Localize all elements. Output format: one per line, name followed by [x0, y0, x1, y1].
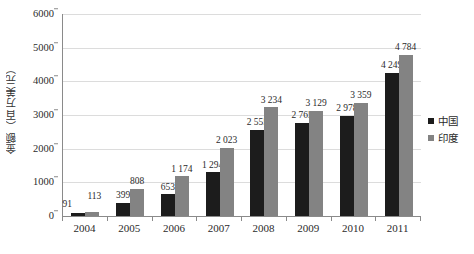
- bar-group: 2 9783 359: [332, 14, 377, 216]
- x-axis-tick-mark: [286, 216, 287, 221]
- bar-slot: 2 978: [340, 14, 354, 216]
- x-axis-ticks: [62, 216, 421, 221]
- x-axis-tick-label: 2007: [196, 222, 241, 235]
- bar-group: 399808: [108, 14, 153, 216]
- bar-value-label: 3 234: [261, 96, 282, 106]
- bar[interactable]: 2 023: [220, 148, 234, 216]
- x-axis-tick-label: 2009: [286, 222, 331, 235]
- bar[interactable]: 2 555: [250, 130, 264, 216]
- y-axis-title-text: 金额（百万美元）: [4, 62, 19, 154]
- y-axis-tick-mark: [54, 8, 58, 9]
- bar[interactable]: 3 129: [309, 111, 323, 216]
- x-axis-tick-label: 2011: [375, 222, 420, 235]
- y-axis-tick-labels: 6000500040003000200010000: [18, 14, 58, 216]
- bar[interactable]: 653: [161, 194, 175, 216]
- bar[interactable]: 399: [116, 203, 130, 216]
- bar-slot: 3 234: [264, 14, 278, 216]
- bar-value-label: 3 129: [305, 99, 326, 109]
- bar-group: 2 5553 234: [242, 14, 287, 216]
- bar[interactable]: 4 784: [399, 55, 413, 216]
- x-axis-tick-label: 2004: [62, 222, 107, 235]
- bar-slot: 91: [71, 14, 85, 216]
- y-axis-tick-mark: [54, 210, 58, 211]
- bar[interactable]: 1 294: [206, 172, 220, 216]
- bar[interactable]: 4 249: [385, 73, 399, 216]
- bar-group: 2 7653 129: [287, 14, 332, 216]
- legend-item-label: 中国: [438, 113, 458, 128]
- x-axis-tick-mark: [152, 216, 153, 221]
- bar-slot: 3 129: [309, 14, 323, 216]
- bar-value-label: 1 174: [171, 165, 192, 175]
- bar-chart: 金额（百万美元） 6000500040003000200010000 91113…: [0, 0, 474, 254]
- bar[interactable]: 1 174: [175, 176, 189, 216]
- legend-item[interactable]: 印度: [428, 129, 474, 146]
- bar-slot: 653: [161, 14, 175, 216]
- bar-slot: 4 784: [399, 14, 413, 216]
- bar-group: 91113: [63, 14, 108, 216]
- legend-item-label: 印度: [438, 130, 458, 145]
- y-axis-tick-mark: [54, 42, 58, 43]
- bar-group: 6531 174: [153, 14, 198, 216]
- bar-value-label: 653: [161, 183, 175, 193]
- y-axis-tick-label: 2000: [33, 143, 54, 154]
- bar-value-label: 2 023: [216, 136, 237, 146]
- bar-group: 1 2942 023: [197, 14, 242, 216]
- bar[interactable]: 2 765: [295, 123, 309, 216]
- y-axis-tick-mark: [54, 109, 58, 110]
- x-axis-tick-mark: [107, 216, 108, 221]
- y-axis-tick-label: 6000: [33, 9, 54, 20]
- x-axis-tick-label: 2008: [241, 222, 286, 235]
- y-axis-tick-mark: [54, 76, 58, 77]
- bar-value-label: 3 359: [350, 91, 371, 101]
- legend-color-swatch: [428, 118, 434, 124]
- x-axis-tick-mark: [241, 216, 242, 221]
- bar-slot: 1 174: [175, 14, 189, 216]
- bar-slot: 2 555: [250, 14, 264, 216]
- y-axis-tick-label: 4000: [33, 76, 54, 87]
- x-axis-tick-mark: [62, 216, 63, 221]
- bar-groups: 911133998086531 1741 2942 0232 5553 2342…: [63, 14, 421, 216]
- bar-value-label: 113: [87, 192, 101, 202]
- x-axis-tick-label: 2006: [152, 222, 197, 235]
- x-axis-tick-mark: [196, 216, 197, 221]
- y-axis-tick-label: 3000: [33, 110, 54, 121]
- bar-value-label: 399: [116, 191, 130, 201]
- bar-slot: 3 359: [354, 14, 368, 216]
- bar[interactable]: 2 978: [340, 116, 354, 216]
- y-axis-tick-mark: [54, 143, 58, 144]
- bar-group: 4 2494 784: [376, 14, 421, 216]
- bar-slot: 2 023: [220, 14, 234, 216]
- x-axis-tick-label: 2010: [331, 222, 376, 235]
- plot-area: 911133998086531 1741 2942 0232 5553 2342…: [62, 14, 421, 217]
- bar-value-label: 4 784: [395, 43, 416, 53]
- y-axis-tick-label: 0: [49, 211, 54, 222]
- bar[interactable]: 3 234: [264, 107, 278, 216]
- bar[interactable]: 3 359: [354, 103, 368, 216]
- x-axis-tick-mark: [375, 216, 376, 221]
- x-axis-tick-mark: [420, 216, 421, 221]
- bar-slot: 2 765: [295, 14, 309, 216]
- legend-item[interactable]: 中国: [428, 112, 474, 129]
- bar-value-label: 808: [130, 177, 144, 187]
- x-axis-tick-labels: 20042005200620072008200920102011: [62, 222, 420, 235]
- legend: 中国印度: [428, 112, 474, 146]
- bar-slot: 399: [116, 14, 130, 216]
- x-axis-tick-label: 2005: [107, 222, 152, 235]
- y-axis-tick-label: 5000: [33, 42, 54, 53]
- x-axis-tick-mark: [331, 216, 332, 221]
- bar-slot: 113: [85, 14, 99, 216]
- legend-color-swatch: [428, 135, 434, 141]
- bar-slot: 1 294: [206, 14, 220, 216]
- y-axis-tick-mark: [54, 177, 58, 178]
- bar[interactable]: 808: [130, 189, 144, 216]
- y-axis-tick-label: 1000: [33, 177, 54, 188]
- bar-slot: 808: [130, 14, 144, 216]
- bar-value-label: 91: [62, 200, 72, 210]
